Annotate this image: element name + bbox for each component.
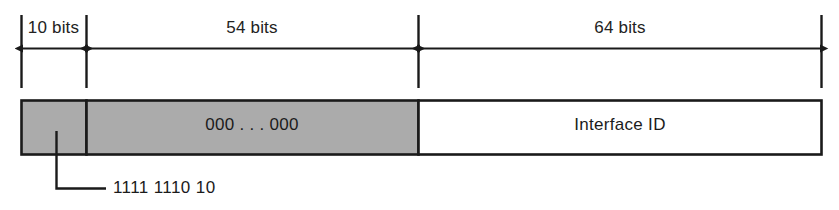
callout-label-prefix-bits: 1111 1110 10 <box>113 178 215 198</box>
field-label-zeros: 000 . . . 000 <box>86 115 418 135</box>
address-format-diagram: 10 bits 54 bits 64 bits 000 . . . 000 In… <box>0 0 839 210</box>
measure-label-64-bits: 64 bits <box>418 18 822 38</box>
field-prefix <box>22 101 87 155</box>
field-label-interface-id: Interface ID <box>418 115 822 135</box>
measure-label-54-bits: 54 bits <box>86 18 418 38</box>
measure-label-10-bits: 10 bits <box>21 18 86 38</box>
